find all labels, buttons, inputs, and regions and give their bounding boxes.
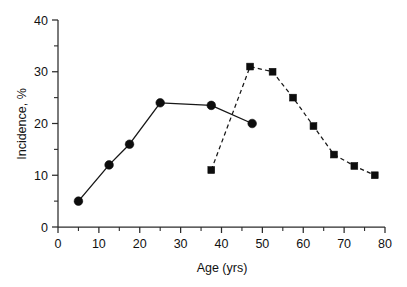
data-point-circle — [207, 101, 216, 110]
y-axis-tick-label: 40 — [34, 14, 48, 28]
y-axis-tick-label: 30 — [34, 65, 48, 79]
data-point-circle — [248, 119, 257, 128]
data-point-square — [208, 167, 215, 174]
data-point-square — [290, 94, 297, 101]
x-axis-tick-label: 80 — [378, 237, 392, 251]
data-point-square — [310, 123, 317, 130]
x-axis-tick-label: 50 — [255, 237, 269, 251]
data-point-square — [331, 151, 338, 158]
y-axis-tick-label: 10 — [34, 169, 48, 183]
x-axis-tick-label: 60 — [296, 237, 310, 251]
data-point-circle — [156, 99, 165, 108]
x-axis-tick-label: 20 — [133, 237, 147, 251]
x-axis-title: Age (yrs) — [197, 261, 248, 275]
data-point-square — [269, 68, 276, 75]
x-axis-tick-labels: 01020304050607080 — [55, 237, 392, 251]
x-axis-tick-label: 0 — [55, 237, 62, 251]
y-axis-tick-label: 0 — [41, 221, 48, 235]
y-axis-title: Incidence, % — [15, 88, 29, 160]
data-point-square — [247, 63, 254, 70]
chart-figure: 010203040 01020304050607080 Incidence, %… — [0, 0, 407, 287]
incidence-age-line-chart: 010203040 01020304050607080 Incidence, %… — [0, 0, 407, 287]
data-point-square — [351, 163, 358, 170]
x-axis-tick-label: 30 — [174, 237, 188, 251]
data-point-circle — [125, 140, 134, 149]
y-axis-tick-label: 20 — [34, 117, 48, 131]
data-point-circle — [74, 197, 83, 206]
x-axis-tick-label: 70 — [337, 237, 351, 251]
x-axis-tick-label: 40 — [215, 237, 229, 251]
data-point-square — [371, 172, 378, 179]
x-axis-tick-label: 10 — [92, 237, 106, 251]
data-point-circle — [105, 161, 114, 170]
